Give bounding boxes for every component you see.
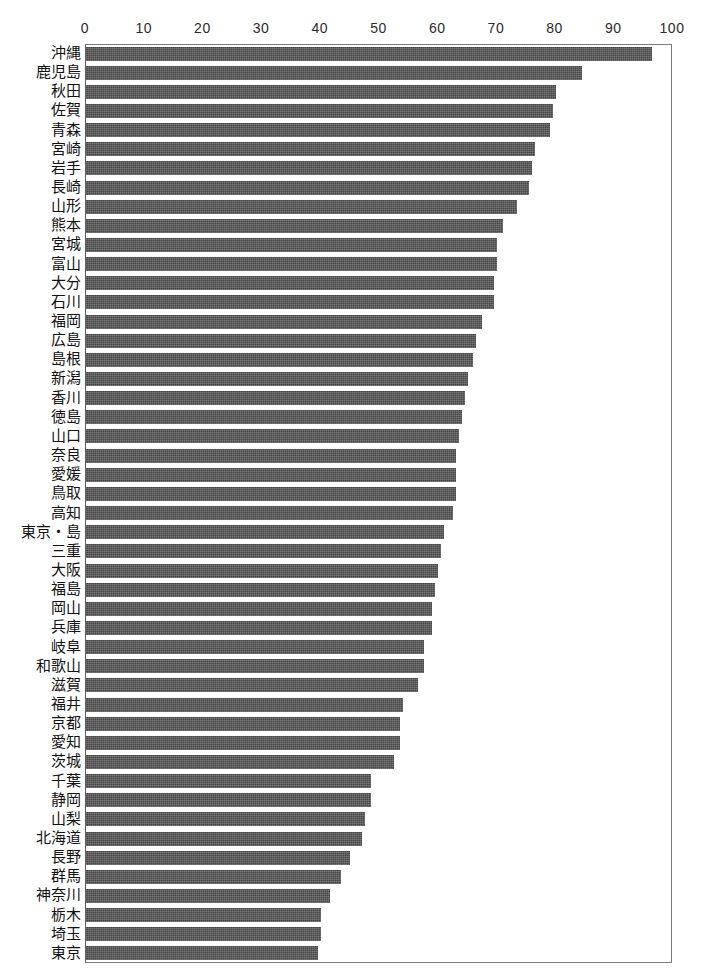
bar bbox=[86, 410, 462, 424]
bar-row: 愛媛 bbox=[0, 465, 701, 484]
bar bbox=[86, 812, 365, 826]
y-tick-label: 島根 bbox=[51, 350, 81, 369]
bar-row: 広島 bbox=[0, 331, 701, 350]
y-tick-label: 高知 bbox=[51, 504, 81, 523]
x-tick-label: 70 bbox=[488, 19, 505, 37]
bar-row: 群馬 bbox=[0, 867, 701, 886]
bar-row: 大分 bbox=[0, 274, 701, 293]
bar bbox=[86, 334, 476, 348]
y-tick-label: 京都 bbox=[51, 714, 81, 733]
bar-row: 秋田 bbox=[0, 82, 701, 101]
bar bbox=[86, 564, 438, 578]
y-tick-label: 群馬 bbox=[51, 867, 81, 886]
bar-row: 佐賀 bbox=[0, 101, 701, 120]
bar bbox=[86, 602, 432, 616]
bar bbox=[86, 755, 394, 769]
chart-title bbox=[66, 0, 386, 8]
y-tick-label: 滋賀 bbox=[51, 676, 81, 695]
bar-row: 宮城 bbox=[0, 235, 701, 254]
y-tick-label: 広島 bbox=[51, 331, 81, 350]
x-tick-label: 80 bbox=[546, 19, 563, 37]
y-tick-label: 宮崎 bbox=[51, 140, 81, 159]
y-tick-label: 沖縄 bbox=[51, 44, 81, 63]
bar bbox=[86, 219, 503, 233]
y-tick-label: 佐賀 bbox=[51, 101, 81, 120]
y-tick-label: 栃木 bbox=[51, 906, 81, 925]
bar-row: 高知 bbox=[0, 504, 701, 523]
x-tick-label: 30 bbox=[253, 19, 270, 37]
bar-row: 神奈川 bbox=[0, 886, 701, 905]
bar bbox=[86, 678, 418, 692]
y-tick-label: 岐阜 bbox=[51, 638, 81, 657]
bar bbox=[86, 161, 532, 175]
bar-row: 三重 bbox=[0, 542, 701, 561]
y-tick-label: 徳島 bbox=[51, 408, 81, 427]
bar-row: 大阪 bbox=[0, 561, 701, 580]
bar-row: 長崎 bbox=[0, 178, 701, 197]
bar-row: 福島 bbox=[0, 580, 701, 599]
y-tick-label: 兵庫 bbox=[51, 618, 81, 637]
x-tick-label: 20 bbox=[194, 19, 211, 37]
bar bbox=[86, 698, 403, 712]
bar-row: 長野 bbox=[0, 848, 701, 867]
bar-row: 熊本 bbox=[0, 216, 701, 235]
bar bbox=[86, 353, 473, 367]
y-tick-label: 青森 bbox=[51, 121, 81, 140]
bar bbox=[86, 889, 330, 903]
bar-row: 鹿児島 bbox=[0, 63, 701, 82]
bar bbox=[86, 583, 435, 597]
bar bbox=[86, 832, 362, 846]
bar-row: 愛知 bbox=[0, 733, 701, 752]
bar bbox=[86, 295, 494, 309]
bar bbox=[86, 525, 444, 539]
bar-row: 沖縄 bbox=[0, 44, 701, 63]
bar bbox=[86, 717, 400, 731]
bar-row: 北海道 bbox=[0, 829, 701, 848]
bar-row: 京都 bbox=[0, 714, 701, 733]
x-tick-label: 40 bbox=[312, 19, 329, 37]
y-tick-label: 愛媛 bbox=[51, 465, 81, 484]
bar bbox=[86, 927, 321, 941]
bar bbox=[86, 659, 424, 673]
bar bbox=[86, 66, 582, 80]
y-tick-label: 千葉 bbox=[51, 772, 81, 791]
bar-row: 栃木 bbox=[0, 906, 701, 925]
bar bbox=[86, 908, 321, 922]
bar bbox=[86, 315, 482, 329]
y-tick-label: 岩手 bbox=[51, 159, 81, 178]
y-tick-label: 東京 bbox=[51, 944, 81, 963]
bar-row: 徳島 bbox=[0, 408, 701, 427]
bar bbox=[86, 85, 556, 99]
bar-row: 山形 bbox=[0, 197, 701, 216]
bar bbox=[86, 104, 553, 118]
y-tick-label: 長野 bbox=[51, 848, 81, 867]
bar-row: 福井 bbox=[0, 695, 701, 714]
bar bbox=[86, 544, 441, 558]
y-tick-label: 神奈川 bbox=[36, 886, 81, 905]
bar-row: 東京・島 bbox=[0, 523, 701, 542]
y-tick-label: 埼玉 bbox=[51, 925, 81, 944]
y-tick-label: 愛知 bbox=[51, 733, 81, 752]
y-tick-label: 三重 bbox=[51, 542, 81, 561]
x-tick-label: 60 bbox=[429, 19, 446, 37]
bar-row: 埼玉 bbox=[0, 925, 701, 944]
bar bbox=[86, 793, 371, 807]
y-tick-label: 香川 bbox=[51, 389, 81, 408]
bar bbox=[86, 621, 432, 635]
y-tick-label: 大阪 bbox=[51, 561, 81, 580]
bar-chart: 0102030405060708090100 沖縄鹿児島秋田佐賀青森宮崎岩手長崎… bbox=[0, 0, 701, 979]
y-tick-label: 熊本 bbox=[51, 216, 81, 235]
bar bbox=[86, 181, 529, 195]
bar-row: 静岡 bbox=[0, 791, 701, 810]
y-tick-label: 福岡 bbox=[51, 312, 81, 331]
bar bbox=[86, 200, 517, 214]
bar bbox=[86, 372, 468, 386]
bar bbox=[86, 870, 341, 884]
bar bbox=[86, 123, 550, 137]
y-tick-label: 秋田 bbox=[51, 82, 81, 101]
bar bbox=[86, 468, 456, 482]
bar bbox=[86, 640, 424, 654]
bar bbox=[86, 257, 497, 271]
bar-row: 富山 bbox=[0, 255, 701, 274]
bar-row: 福岡 bbox=[0, 312, 701, 331]
